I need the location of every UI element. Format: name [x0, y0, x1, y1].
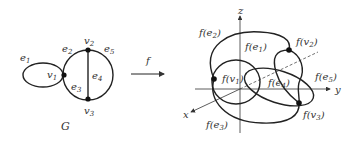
label-f-e3: f(e3) [205, 119, 228, 132]
label-f-e4: f(e4) [267, 77, 290, 90]
label-e5: e5 [104, 43, 115, 56]
axis-label-y: y [334, 84, 341, 95]
edge-f-e2 [210, 32, 289, 79]
map-label: f [145, 55, 152, 66]
vertex-f-v2 [286, 47, 292, 53]
graph-caption: G [61, 120, 70, 133]
label-e3: e3 [71, 81, 82, 94]
label-f-v3: f(v3) [302, 109, 325, 122]
vertex-v1 [61, 72, 66, 77]
label-f-e1: f(e1) [244, 41, 267, 54]
graph-g: e1 v1 e2 v2 e5 e4 e3 v3 G [20, 35, 115, 133]
axis-label-x: x [183, 109, 189, 120]
label-e4: e4 [92, 70, 102, 83]
label-f-e5: f(e5) [314, 71, 337, 84]
vertex-f-v3 [296, 100, 302, 106]
label-e2: e2 [62, 43, 73, 56]
embedding-3d: z y x f(e2) f(e1) f(v2) f(v1) f(e4) f(e5… [183, 5, 341, 133]
label-v2: v2 [84, 35, 95, 48]
label-e1: e1 [20, 52, 30, 65]
map-f: f [131, 55, 164, 74]
vertex-f-v1 [211, 76, 217, 82]
axis-label-z: z [237, 5, 244, 16]
vertex-v3 [85, 96, 90, 101]
vertex-v2 [85, 47, 90, 52]
label-f-e2: f(e2) [198, 27, 221, 40]
label-v1: v1 [47, 69, 57, 82]
diagram-canvas: e1 v1 e2 v2 e5 e4 e3 v3 G f z y x [0, 0, 361, 143]
label-f-v2: f(v2) [295, 36, 318, 49]
label-v3: v3 [84, 105, 95, 118]
